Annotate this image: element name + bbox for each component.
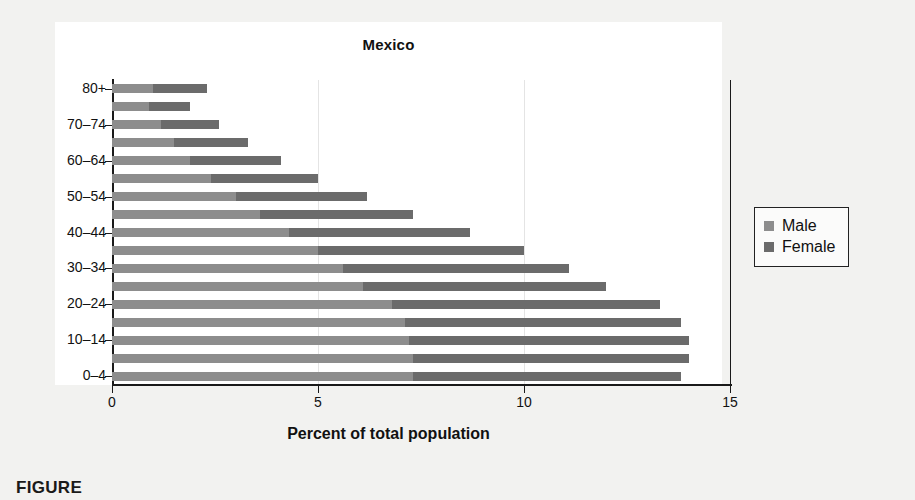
bar-row <box>112 246 524 255</box>
bar-row <box>112 210 413 219</box>
bar-segment-female <box>318 246 524 255</box>
figure-caption: FIGURE <box>16 478 82 498</box>
y-tick <box>105 125 112 126</box>
bar-segment-female <box>260 210 412 219</box>
bar-row <box>112 372 681 381</box>
bar-row <box>112 318 681 327</box>
y-axis-tick-labels: 0–410–1420–2430–3440–4450–5460–6470–7480… <box>0 80 106 385</box>
y-tick <box>105 268 112 269</box>
y-tick-label: 0–4 <box>83 367 106 383</box>
bar-segment-male <box>112 246 318 255</box>
bar-row <box>112 336 689 345</box>
y-tick-label: 30–34 <box>67 259 106 275</box>
x-tick-0 <box>112 386 113 393</box>
legend-swatch-male <box>764 221 774 231</box>
bar-segment-female <box>190 156 281 165</box>
bar-row <box>112 354 689 363</box>
y-tick-label: 80+ <box>82 80 106 96</box>
bar-segment-male <box>112 300 392 309</box>
bar-row <box>112 156 281 165</box>
y-tick-label: 50–54 <box>67 188 106 204</box>
bar-segment-female <box>413 354 689 363</box>
bar-row <box>112 282 606 291</box>
bar-row <box>112 264 569 273</box>
y-tick-label: 40–44 <box>67 224 106 240</box>
bar-row <box>112 84 207 93</box>
bar-row <box>112 120 219 129</box>
legend-label-female: Female <box>782 237 835 257</box>
bar-segment-male <box>112 210 260 219</box>
bar-segment-female <box>211 174 318 183</box>
bar-segment-male <box>112 156 190 165</box>
bar-segment-female <box>413 372 681 381</box>
bar-row <box>112 228 470 237</box>
legend-label-male: Male <box>782 216 817 236</box>
bar-segment-female <box>343 264 570 273</box>
bar-segment-male <box>112 264 343 273</box>
x-tick-label-5: 5 <box>314 394 322 410</box>
bar-row <box>112 174 318 183</box>
y-tick <box>105 340 112 341</box>
bar-segment-male <box>112 282 363 291</box>
bar-segment-female <box>289 228 470 237</box>
y-tick <box>105 304 112 305</box>
legend-item-male: Male <box>764 216 835 236</box>
bar-segment-male <box>112 318 405 327</box>
bar-row <box>112 102 190 111</box>
x-tick-15 <box>730 386 731 393</box>
y-tick-label: 70–74 <box>67 116 106 132</box>
bar-row <box>112 138 248 147</box>
figure-container: Mexico 051015 0–410–1420–2430–3440–4450–… <box>0 0 915 500</box>
chart-legend: Male Female <box>754 207 849 267</box>
bar-segment-female <box>161 120 219 129</box>
bar-segment-female <box>409 336 689 345</box>
bar-row <box>112 300 660 309</box>
y-tick <box>105 161 112 162</box>
y-tick <box>105 89 112 90</box>
bar-segment-female <box>174 138 248 147</box>
x-tick-10 <box>524 386 525 393</box>
legend-item-female: Female <box>764 237 835 257</box>
y-tick-label: 60–64 <box>67 152 106 168</box>
bar-segment-male <box>112 138 174 147</box>
chart-title: Mexico <box>55 36 722 53</box>
bar-segment-male <box>112 84 153 93</box>
bar-segment-female <box>363 282 606 291</box>
bar-segment-male <box>112 174 211 183</box>
bar-segment-female <box>149 102 190 111</box>
bars-area <box>112 80 730 385</box>
bar-segment-male <box>112 372 413 381</box>
bar-segment-female <box>236 192 368 201</box>
bar-row <box>112 192 367 201</box>
bar-segment-male <box>112 120 161 129</box>
y-tick <box>105 376 112 377</box>
x-tick-label-10: 10 <box>516 394 532 410</box>
bar-segment-male <box>112 192 236 201</box>
bar-segment-male <box>112 102 149 111</box>
bar-segment-male <box>112 336 409 345</box>
x-tick-5 <box>318 386 319 393</box>
x-tick-label-15: 15 <box>722 394 738 410</box>
bar-segment-female <box>405 318 681 327</box>
bar-segment-male <box>112 354 413 363</box>
plot-right-border <box>730 80 731 386</box>
y-tick-label: 10–14 <box>67 331 106 347</box>
bar-segment-male <box>112 228 289 237</box>
y-tick <box>105 233 112 234</box>
x-axis-title: Percent of total population <box>55 425 722 443</box>
x-tick-label-0: 0 <box>108 394 116 410</box>
y-tick-label: 20–24 <box>67 295 106 311</box>
y-tick <box>105 197 112 198</box>
legend-swatch-female <box>764 242 774 252</box>
bar-segment-female <box>153 84 207 93</box>
bar-segment-female <box>392 300 660 309</box>
